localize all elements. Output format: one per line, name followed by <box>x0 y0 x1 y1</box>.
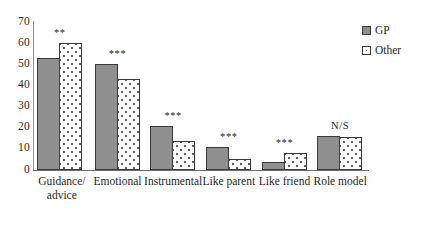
y-tick-label: 20 <box>2 121 30 132</box>
legend-item-gp: GP <box>362 22 432 38</box>
solid-grey-swatch-icon <box>362 26 371 35</box>
legend-item-other: Other <box>362 42 432 58</box>
bar-gp <box>317 136 340 170</box>
bar-other <box>339 137 362 170</box>
bar-gp <box>95 64 118 170</box>
significance-annotation: *** <box>262 138 308 148</box>
legend-label: Other <box>375 44 401 56</box>
plot-area: **************N/S <box>34 22 368 170</box>
y-tick-label: 60 <box>2 37 30 48</box>
y-tick-label: 30 <box>2 100 30 111</box>
significance-annotation: ** <box>37 28 83 38</box>
y-axis: 70 60 50 40 30 20 10 0 <box>0 0 30 225</box>
bar-gp <box>37 58 60 170</box>
bar-group: *** <box>95 22 141 170</box>
bar-gp <box>150 126 173 170</box>
bar-other <box>117 79 140 170</box>
x-axis-category-labels: Guidance/adviceEmotionalInstrumentalLike… <box>34 174 368 222</box>
legend-label: GP <box>375 24 390 36</box>
y-tick-label: 10 <box>2 142 30 153</box>
chart-legend: GP Other <box>362 22 432 62</box>
significance-annotation: *** <box>206 132 252 142</box>
bar-group: ** <box>37 22 83 170</box>
y-tick-label: 0 <box>2 164 30 175</box>
bar-other <box>172 141 195 170</box>
significance-annotation: *** <box>95 49 141 59</box>
bar-other <box>284 153 307 170</box>
significance-annotation: N/S <box>317 121 363 131</box>
bar-gp <box>262 162 285 170</box>
y-tick-label: 50 <box>2 58 30 69</box>
bar-group: *** <box>206 22 252 170</box>
dotted-swatch-icon <box>362 46 371 55</box>
bar-other <box>228 159 251 170</box>
y-tick-label: 40 <box>2 79 30 90</box>
x-axis-line <box>33 170 369 171</box>
bar-group: N/S <box>317 22 363 170</box>
significance-annotation: *** <box>150 111 196 121</box>
bar-group: *** <box>262 22 308 170</box>
x-axis-label: Role model <box>306 174 374 188</box>
bar-gp <box>206 147 229 170</box>
bar-group: *** <box>150 22 196 170</box>
grouped-bar-chart: 70 60 50 40 30 20 10 0 **************N/S… <box>0 0 435 225</box>
y-tick-label: 70 <box>2 16 30 27</box>
bar-other <box>59 43 82 170</box>
